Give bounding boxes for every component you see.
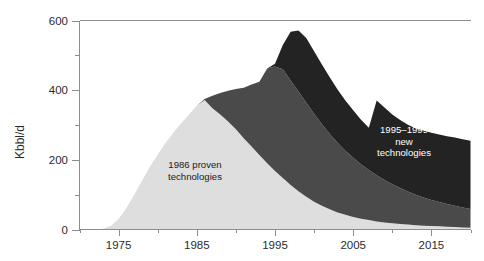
annotation-line: 1986 proven xyxy=(168,159,221,170)
x-tick-labels: 19751985199520052015 xyxy=(106,239,444,251)
x-tick-label: 2015 xyxy=(419,239,445,251)
area-chart: 0200400600 19751985199520052015 Kbbl/d 1… xyxy=(0,0,484,261)
y-tick-label: 400 xyxy=(49,84,68,96)
annotation-line: technologies xyxy=(377,147,431,158)
y-tick-labels: 0200400600 xyxy=(49,15,68,236)
x-tick-label: 1995 xyxy=(262,239,288,251)
annotation-proven: 1986 proventechnologies xyxy=(168,159,222,182)
x-tick-label: 1985 xyxy=(184,239,210,251)
chart-container: 0200400600 19751985199520052015 Kbbl/d 1… xyxy=(0,0,484,261)
y-tick-label: 0 xyxy=(62,224,68,236)
annotation-line: 1995–1999 xyxy=(380,124,428,135)
annotation-line: new xyxy=(395,136,413,147)
y-axis-title: Kbbl/d xyxy=(13,125,27,159)
y-tick-label: 600 xyxy=(49,15,68,27)
x-tick-label: 2005 xyxy=(340,239,366,251)
annotation-line: technologies xyxy=(168,171,222,182)
y-tick-label: 200 xyxy=(49,154,68,166)
x-tick-label: 1975 xyxy=(106,239,132,251)
